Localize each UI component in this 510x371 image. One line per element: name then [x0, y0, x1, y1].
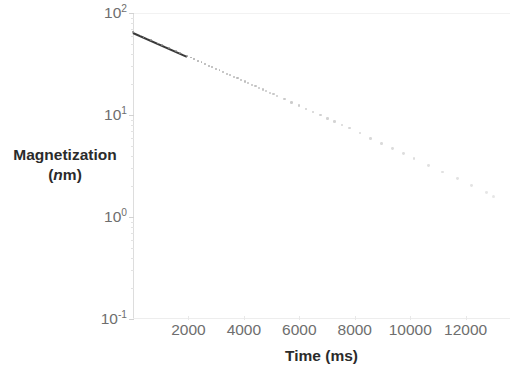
data-point — [211, 66, 213, 68]
data-point — [197, 60, 199, 62]
magnetization-decay-chart: 10210110010-1 20004000600080001000012000… — [0, 0, 510, 371]
data-point — [233, 76, 235, 78]
data-point — [258, 87, 260, 89]
data-point — [298, 104, 300, 106]
y-tick-mantissa: 10 — [101, 310, 118, 327]
data-point — [193, 58, 195, 60]
plot-area — [133, 13, 510, 319]
y-axis-title-line1: Magnetization — [13, 146, 116, 163]
data-point — [359, 132, 362, 135]
data-point — [441, 171, 444, 174]
data-point — [226, 73, 228, 75]
data-point — [190, 57, 192, 59]
data-point — [251, 84, 253, 86]
data-point — [168, 47, 170, 49]
y-tick-mantissa: 10 — [104, 4, 121, 21]
y-tick-mantissa: 10 — [104, 106, 121, 123]
data-point — [244, 80, 246, 82]
y-tick-exponent: -1 — [118, 309, 127, 320]
y-tick-label: 100 — [104, 209, 127, 225]
data-point — [276, 95, 278, 97]
data-point — [132, 31, 133, 32]
y-tick-label: 10-1 — [101, 311, 127, 327]
data-point — [312, 111, 315, 114]
data-point — [470, 184, 473, 187]
data-point — [492, 195, 495, 198]
data-point — [305, 108, 308, 111]
data-point — [204, 63, 206, 65]
x-tick-label: 6000 — [282, 322, 316, 338]
data-point — [219, 69, 221, 71]
data-point — [369, 137, 372, 140]
data-point — [240, 79, 242, 81]
data-point — [391, 147, 394, 150]
y-tick-exponent: 1 — [121, 105, 127, 116]
data-point — [319, 114, 322, 117]
data-point — [222, 71, 224, 73]
data-point — [290, 101, 292, 103]
y-tick-label: 101 — [104, 107, 127, 123]
data-point — [427, 164, 430, 167]
x-tick-label: 8000 — [338, 322, 372, 338]
x-tick-label: 2000 — [171, 322, 205, 338]
data-point — [265, 90, 267, 92]
data-point — [456, 177, 459, 180]
data-point — [179, 52, 181, 54]
x-tick-label: 4000 — [227, 322, 261, 338]
data-point — [262, 88, 264, 90]
data-point — [348, 127, 351, 130]
y-tick-mantissa: 10 — [104, 208, 121, 225]
data-point — [283, 98, 285, 100]
data-point — [161, 44, 163, 46]
x-axis-title: Time (ms) — [133, 347, 510, 365]
data-point — [208, 65, 210, 67]
y-axis-title: Magnetization (nm) — [4, 145, 126, 185]
unit-n-italic: n — [53, 166, 62, 183]
decay-fit-line — [133, 32, 188, 57]
data-point — [413, 157, 416, 160]
data-point — [254, 85, 256, 87]
x-tick-label: 12000 — [444, 322, 487, 338]
data-point — [186, 55, 188, 57]
data-point — [333, 120, 336, 123]
data-point — [269, 92, 271, 94]
data-point — [485, 191, 488, 194]
y-tick-mark — [129, 319, 134, 320]
data-point — [247, 82, 249, 84]
data-point — [402, 152, 405, 155]
data-point — [157, 43, 158, 44]
data-point — [150, 39, 151, 40]
y-axis-title-unit: (nm) — [48, 166, 82, 183]
x-tick-label: 10000 — [389, 322, 432, 338]
data-point — [236, 77, 238, 79]
data-point — [272, 93, 274, 95]
data-point — [201, 61, 203, 63]
data-point — [229, 74, 231, 76]
paren-close: ) — [77, 166, 82, 183]
y-tick-exponent: 2 — [121, 3, 127, 14]
unit-m: m — [63, 166, 77, 183]
data-point — [215, 68, 217, 70]
data-point — [380, 142, 383, 145]
y-tick-label: 102 — [104, 5, 127, 21]
data-point — [326, 117, 329, 120]
y-tick-exponent: 0 — [121, 207, 127, 218]
data-point — [140, 35, 141, 36]
data-point — [341, 124, 344, 127]
